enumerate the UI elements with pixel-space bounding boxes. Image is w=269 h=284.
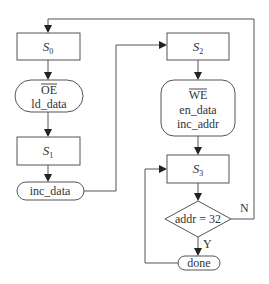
action-oe-ld-data: OE ld_data [15, 80, 83, 112]
action-done: done [178, 256, 220, 270]
arrowhead-icon [44, 129, 52, 137]
svg-text:done: done [187, 256, 210, 270]
inc-addr-label: inc_addr [177, 117, 219, 131]
we-label: WE [189, 88, 208, 102]
flowchart-diagram: S0 OE ld_data S1 inc_data S2 WE en_data … [0, 0, 269, 284]
decision-addr-32: addr = 32 [165, 201, 231, 237]
action-we-en-data-inc-addr: WE en_data inc_addr [161, 80, 235, 136]
arrowhead-icon [194, 72, 202, 80]
edge-label-no: N [240, 201, 249, 215]
svg-text:inc_data: inc_data [30, 184, 71, 198]
en-data-label: en_data [179, 103, 217, 117]
arrowhead-icon [159, 41, 167, 49]
arrowhead-icon [159, 165, 167, 173]
oe-label: OE [41, 83, 57, 97]
state-s2: S2 [167, 33, 229, 60]
arrowhead-icon [194, 193, 202, 201]
edge-label-yes: Y [203, 237, 212, 251]
state-s1: S1 [17, 137, 80, 165]
action-inc-data: inc_data [17, 182, 84, 200]
arrowhead-icon [44, 174, 52, 182]
ld-data-label: ld_data [31, 97, 67, 111]
state-s3: S3 [167, 155, 229, 183]
arrowhead-icon [194, 248, 202, 256]
arrowhead-icon [44, 25, 52, 33]
svg-text:addr = 32: addr = 32 [175, 212, 221, 226]
state-s0: S0 [17, 33, 80, 60]
arrowhead-icon [194, 147, 202, 155]
arrowhead-icon [44, 72, 52, 80]
